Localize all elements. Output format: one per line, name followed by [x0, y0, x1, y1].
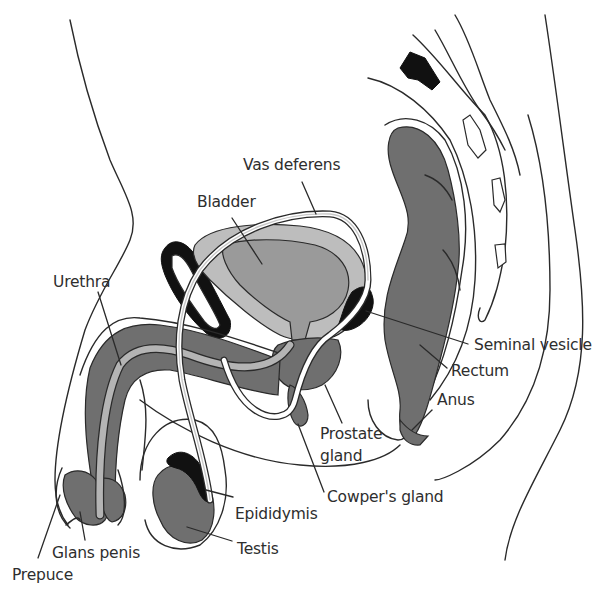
label-seminal-vesicle: Seminal vesicle: [474, 336, 592, 354]
leader-prostate: [325, 385, 342, 423]
label-prostate-gland-line1: Prostate: [320, 425, 382, 443]
vertebra-4: [495, 244, 506, 268]
vertebra-2: [463, 115, 486, 158]
label-bladder: Bladder: [197, 193, 256, 211]
label-epididymis: Epididymis: [235, 505, 318, 523]
vertebra-3: [492, 178, 505, 212]
label-urethra: Urethra: [53, 273, 110, 291]
rectum: [384, 127, 459, 436]
label-vas-deferens: Vas deferens: [243, 156, 340, 174]
label-prepuce: Prepuce: [12, 566, 73, 584]
label-cowpers-gland: Cowper's gland: [327, 488, 444, 506]
sacrum-outline: [455, 15, 520, 175]
label-testis: Testis: [237, 540, 279, 558]
leader-vas-deferens: [302, 182, 316, 214]
label-anus: Anus: [437, 391, 475, 409]
label-prostate-gland-line2: gland: [320, 447, 362, 465]
back-outline-outer: [505, 15, 583, 560]
label-rectum: Rectum: [451, 362, 509, 380]
label-glans-penis: Glans penis: [52, 544, 140, 562]
scrotum-inner: [140, 380, 146, 470]
